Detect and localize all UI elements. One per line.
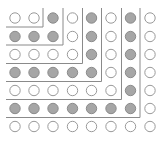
filled-dot (67, 103, 77, 113)
empty-dot (10, 49, 20, 59)
empty-dot (29, 13, 39, 23)
filled-dot (48, 13, 58, 23)
empty-dot (67, 121, 77, 131)
empty-dot (10, 13, 20, 23)
dot-square-diagram (0, 0, 163, 146)
empty-dot (29, 121, 39, 131)
empty-dot (10, 121, 20, 131)
l-shape-line-6 (6, 8, 140, 118)
empty-dot (145, 67, 155, 77)
empty-dot (145, 121, 155, 131)
filled-dot (125, 67, 135, 77)
empty-dot (67, 49, 77, 59)
filled-dot (125, 49, 135, 59)
empty-dot (145, 85, 155, 95)
empty-dot (106, 85, 116, 95)
filled-dot (86, 49, 96, 59)
empty-dot (86, 85, 96, 95)
empty-dot (106, 31, 116, 41)
filled-dot (67, 67, 77, 77)
l-shape-line-5 (6, 8, 122, 100)
empty-dot (29, 49, 39, 59)
empty-dot (106, 49, 116, 59)
empty-dot (48, 49, 58, 59)
empty-dot (67, 13, 77, 23)
filled-dot (10, 31, 20, 41)
empty-dot (106, 67, 116, 77)
filled-dot (29, 67, 39, 77)
filled-dot (125, 31, 135, 41)
filled-dot (29, 103, 39, 113)
empty-dot (29, 85, 39, 95)
filled-dot (48, 31, 58, 41)
filled-dot (125, 103, 135, 113)
empty-dot (67, 31, 77, 41)
filled-dot (86, 103, 96, 113)
empty-dot (125, 121, 135, 131)
filled-dot (86, 13, 96, 23)
empty-dot (48, 85, 58, 95)
empty-dot (145, 13, 155, 23)
filled-dot (125, 13, 135, 23)
empty-dot (106, 121, 116, 131)
empty-dot (10, 85, 20, 95)
empty-dot (145, 31, 155, 41)
l-shaped-dividers (6, 8, 140, 118)
filled-dot (48, 103, 58, 113)
filled-dot (48, 67, 58, 77)
empty-dot (48, 121, 58, 131)
filled-dot (10, 103, 20, 113)
filled-dot (29, 31, 39, 41)
empty-dot (86, 121, 96, 131)
empty-dot (106, 13, 116, 23)
empty-dot (145, 49, 155, 59)
filled-dot (106, 103, 116, 113)
empty-dot (145, 103, 155, 113)
filled-dot (125, 85, 135, 95)
filled-dot (86, 31, 96, 41)
empty-dot (67, 85, 77, 95)
filled-dot (10, 67, 20, 77)
filled-dot (86, 67, 96, 77)
